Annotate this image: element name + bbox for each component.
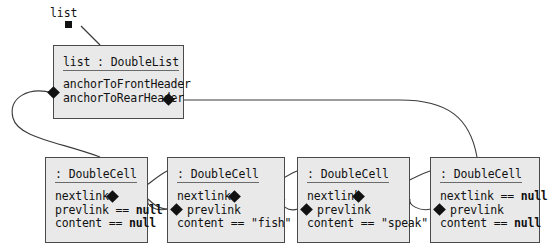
attribute-label: content == (440, 216, 514, 230)
object-header-cell1: : DoubleCell (55, 168, 137, 183)
object-header-cell2: : DoubleCell (177, 168, 259, 183)
attribute-content: content == null (55, 217, 139, 231)
attribute-value: null (129, 216, 156, 230)
object-diagram-canvas: list list : DoubleList anchorToFrontHead… (0, 0, 552, 250)
attribute-value: null (521, 189, 548, 203)
attribute-list-cell1: nextlink prevlink == null content == nul… (46, 183, 147, 236)
object-doublecell-4[interactable]: : DoubleCell nextlink == null prevlink c… (430, 157, 540, 243)
root-role-label: list (50, 6, 77, 20)
attribute-label: prevlink (187, 203, 241, 217)
attribute-nextlink: nextlink == null (440, 190, 531, 204)
attribute-list-cell3: nextlink prevlink content == "speak" (298, 183, 409, 236)
object-header-wrap: : DoubleCell (431, 158, 539, 183)
link-cell4-prev-to-cell3 (410, 199, 431, 210)
attribute-list-cell2: nextlink prevlink content == "fish" (168, 183, 284, 236)
attribute-list-cell4: nextlink == null prevlink content == nul… (431, 183, 539, 236)
object-header-wrap: : DoubleCell (46, 158, 147, 183)
object-doublecell-2[interactable]: : DoubleCell nextlink prevlink content =… (167, 157, 285, 243)
attribute-label: content == "speak" (307, 216, 428, 230)
object-header-list: list : DoubleList (63, 56, 179, 71)
root-source-square (65, 21, 72, 28)
attribute-list-list: anchorToFrontHeader anchorToRearHeader (54, 71, 183, 110)
attribute-label: prevlink == (55, 203, 136, 217)
link-anchor-rear-to-cell4 (176, 100, 477, 157)
attribute-anchorToRearHeader: anchorToRearHeader (63, 92, 175, 106)
attribute-label: anchorToFrontHeader (63, 77, 191, 91)
attribute-anchorToFrontHeader: anchorToFrontHeader (63, 78, 175, 92)
object-header-cell4: : DoubleCell (440, 168, 522, 183)
attribute-content: content == null (440, 217, 531, 231)
attribute-label: nextlink (55, 189, 109, 203)
object-header-wrap: list : DoubleList (54, 46, 183, 71)
object-doublecell-1[interactable]: : DoubleCell nextlink prevlink == null c… (45, 157, 148, 243)
attribute-label: content == (55, 216, 129, 230)
object-header-wrap: : DoubleCell (168, 158, 284, 183)
attribute-label: content == "fish" (177, 216, 291, 230)
attribute-label: prevlink (450, 203, 504, 217)
attribute-value: null (136, 203, 163, 217)
attribute-nextlink: nextlink (177, 190, 276, 204)
attribute-label: nextlink (177, 189, 231, 203)
attribute-prevlink: prevlink == null (55, 204, 139, 218)
attribute-value: null (514, 216, 541, 230)
attribute-content: content == "speak" (307, 217, 401, 231)
object-header-cell3: : DoubleCell (307, 168, 389, 183)
attribute-prevlink: prevlink (307, 204, 401, 218)
attribute-prevlink: prevlink (440, 204, 531, 218)
attribute-label: nextlink == (440, 189, 521, 203)
attribute-content: content == "fish" (177, 217, 276, 231)
attribute-prevlink: prevlink (177, 204, 276, 218)
attribute-nextlink: nextlink (55, 190, 139, 204)
link-list-role (81, 26, 100, 45)
object-header-wrap: : DoubleCell (298, 158, 409, 183)
object-doublecell-3[interactable]: : DoubleCell nextlink prevlink content =… (297, 157, 410, 243)
object-list-doublelist[interactable]: list : DoubleList anchorToFrontHeader an… (53, 45, 184, 119)
attribute-label: prevlink (317, 203, 371, 217)
